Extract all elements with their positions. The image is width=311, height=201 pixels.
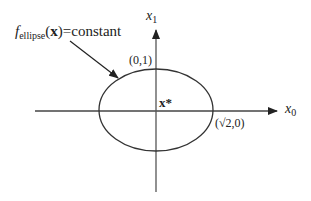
top-point-label: (0,1) (129, 53, 152, 67)
x1-axis-label: x1 (145, 8, 157, 25)
ellipse-diagram: fellipse(x)=constant x1 x0 (0,1) (√2,0) … (0, 0, 311, 201)
function-label: fellipse(x)=constant (15, 23, 122, 41)
right-point-label: (√2,0) (215, 116, 245, 130)
x0-axis-label: x0 (284, 101, 296, 118)
center-point-label: x* (159, 95, 172, 110)
label-pointer-arrow (70, 41, 118, 78)
